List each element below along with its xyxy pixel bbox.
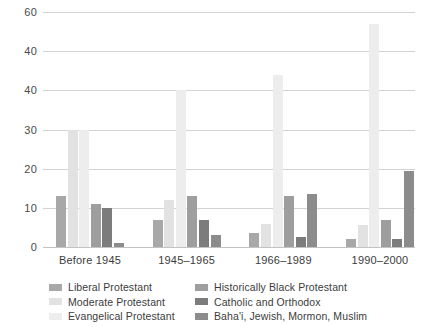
y-axis-tick-label: 30 — [24, 124, 37, 136]
y-axis-tick-label: 0 — [31, 241, 37, 253]
bar — [164, 200, 174, 247]
legend-swatch — [195, 284, 208, 291]
bar — [153, 220, 163, 247]
bar — [261, 224, 271, 248]
bars-layer: Before 19451945–19651966–19891990–2000 — [43, 12, 415, 247]
bar — [79, 130, 89, 248]
y-axis-tick-label: 20 — [24, 163, 37, 175]
bar — [114, 243, 124, 247]
bar — [91, 204, 101, 247]
legend-swatch — [195, 298, 208, 305]
y-axis-tick-label: 60 — [24, 6, 37, 18]
y-axis-tick-label: 40 — [24, 84, 37, 96]
bar — [296, 237, 306, 247]
legend-label: Liberal Protestant — [68, 281, 152, 293]
y-axis-tick-label: 40 — [24, 45, 37, 57]
bar — [68, 130, 78, 248]
legend-label: Moderate Protestant — [68, 296, 165, 308]
x-axis-category-label: 1966–1989 — [249, 254, 317, 266]
bar — [392, 239, 402, 247]
legend-swatch — [49, 298, 62, 305]
x-axis-category-label: Before 1945 — [56, 254, 124, 266]
bar — [307, 194, 317, 247]
legend-item: Evangelical Protestant — [49, 310, 175, 322]
legend-label: Evangelical Protestant — [68, 310, 175, 322]
bar — [358, 225, 368, 247]
plot-area: 6040403020100 Before 19451945–19651966–1… — [43, 12, 415, 247]
bar — [199, 220, 209, 247]
legend: Liberal ProtestantModerate ProtestantEva… — [49, 281, 419, 325]
legend-item: Baha'i, Jewish, Mormon, Muslim — [195, 310, 367, 322]
legend-label: Catholic and Orthodox — [214, 296, 321, 308]
bar — [381, 220, 391, 247]
legend-item: Moderate Protestant — [49, 296, 165, 308]
bar — [284, 196, 294, 247]
bar-group: 1945–1965 — [153, 12, 221, 247]
bar — [404, 171, 414, 247]
bar — [176, 90, 186, 247]
bar-group: Before 1945 — [56, 12, 124, 247]
bar-group: 1966–1989 — [249, 12, 317, 247]
bar — [56, 196, 66, 247]
legend-swatch — [195, 313, 208, 320]
bar — [369, 24, 379, 247]
bar-group: 1990–2000 — [346, 12, 414, 247]
gridline — [43, 247, 415, 248]
legend-swatch — [49, 284, 62, 291]
x-axis-category-label: 1990–2000 — [346, 254, 414, 266]
legend-item: Liberal Protestant — [49, 281, 152, 293]
legend-item: Historically Black Protestant — [195, 281, 347, 293]
bar — [273, 75, 283, 247]
clipped-title — [0, 0, 425, 6]
bar — [346, 239, 356, 247]
bar — [102, 208, 112, 247]
legend-label: Baha'i, Jewish, Mormon, Muslim — [214, 310, 367, 322]
bar-chart: 6040403020100 Before 19451945–19651966–1… — [0, 0, 425, 327]
legend-label: Historically Black Protestant — [214, 281, 347, 293]
bar — [211, 235, 221, 247]
bar — [249, 233, 259, 247]
bar — [187, 196, 197, 247]
legend-swatch — [49, 313, 62, 320]
legend-item: Catholic and Orthodox — [195, 296, 321, 308]
x-axis-category-label: 1945–1965 — [153, 254, 221, 266]
y-axis-tick-label: 10 — [24, 202, 37, 214]
